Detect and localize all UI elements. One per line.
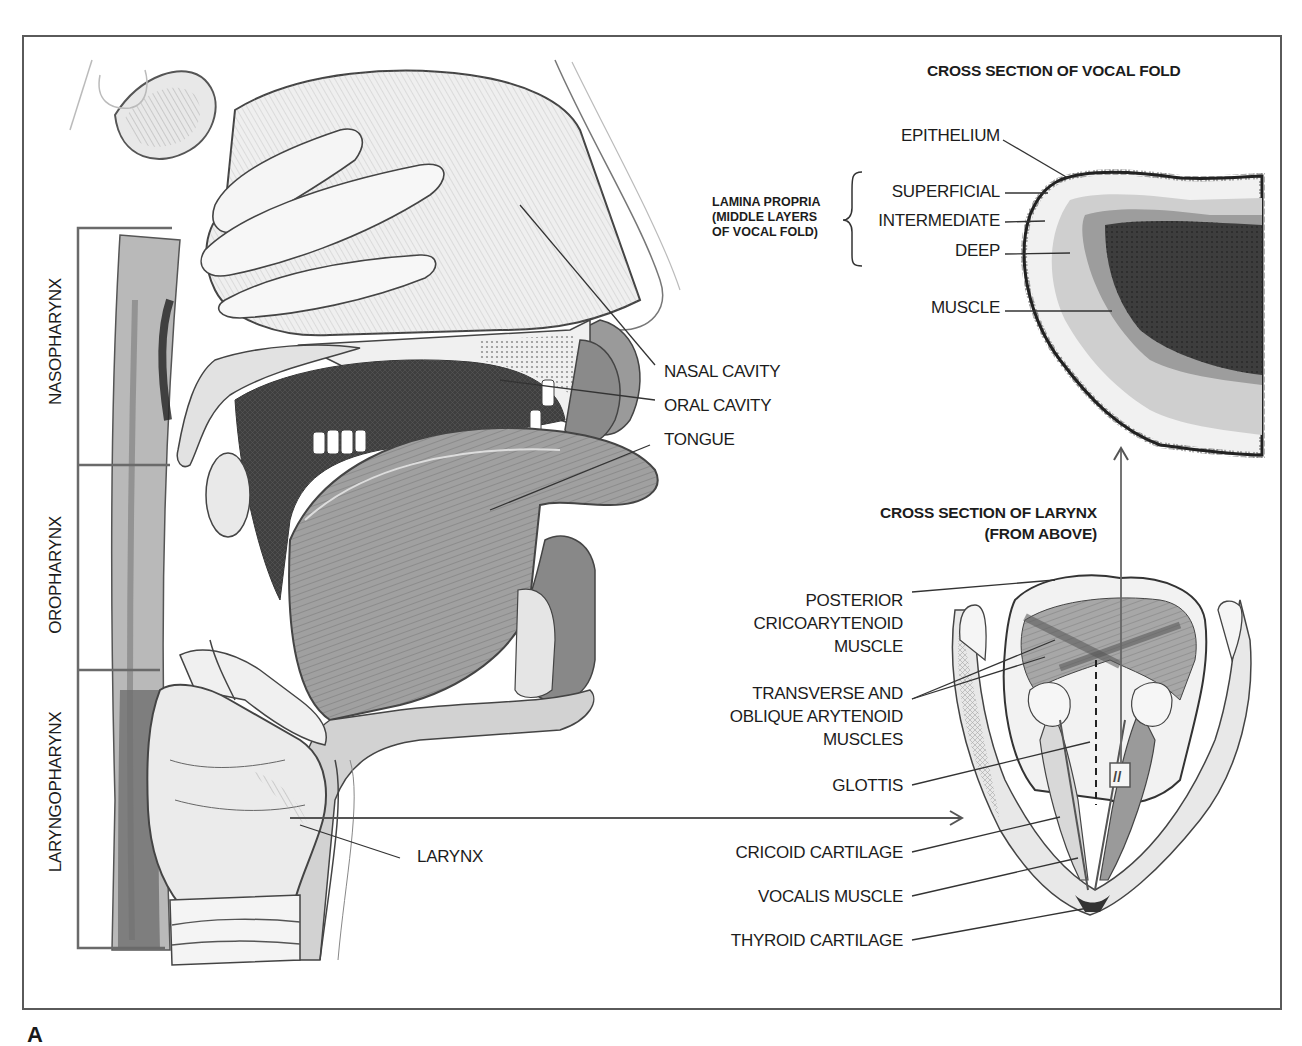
label-muscle: MUSCLE — [931, 298, 1000, 318]
arytenoid-line1: TRANSVERSE AND — [730, 682, 903, 705]
lamina-propria-line2: (MIDDLE LAYERS — [712, 210, 821, 225]
label-superficial: SUPERFICIAL — [892, 182, 1000, 202]
label-larynx: LARYNX — [417, 847, 483, 867]
label-tongue: TONGUE — [664, 430, 735, 450]
label-deep: DEEP — [955, 241, 1000, 261]
larynx-section-illustration: // — [952, 575, 1251, 915]
section-marker-glyph: // — [1113, 768, 1122, 785]
posterior-ca-line2: CRICOARYTENOID — [754, 612, 903, 635]
figure-letter: A — [27, 1022, 43, 1046]
sagittal-head-neck — [70, 60, 680, 965]
posterior-ca-line1: POSTERIOR — [754, 589, 903, 612]
label-vocalis-muscle: VOCALIS MUSCLE — [758, 887, 903, 907]
label-arytenoid-muscles: TRANSVERSE AND OBLIQUE ARYTENOID MUSCLES — [730, 682, 903, 751]
label-nasal-cavity: NASAL CAVITY — [664, 362, 780, 382]
label-intermediate: INTERMEDIATE — [878, 211, 1000, 231]
lamina-propria-line1: LAMINA PROPRIA — [712, 195, 821, 210]
label-glottis: GLOTTIS — [832, 776, 903, 796]
label-thyroid-cartilage: THYROID CARTILAGE — [731, 931, 903, 951]
label-oral-cavity: ORAL CAVITY — [664, 396, 771, 416]
posterior-ca-line3: MUSCLE — [754, 635, 903, 658]
label-epithelium: EPITHELIUM — [901, 126, 1000, 146]
title-larynx-section-line1: CROSS SECTION OF LARYNX — [880, 504, 1097, 522]
title-larynx-section-line2: (FROM ABOVE) — [985, 525, 1097, 543]
label-oropharynx: OROPHARYNX — [46, 515, 66, 635]
arytenoid-line2: OBLIQUE ARYTENOID — [730, 705, 903, 728]
label-laryngopharynx: LARYNGOPHARYNX — [46, 710, 66, 874]
label-cricoid-cartilage: CRICOID CARTILAGE — [736, 843, 903, 863]
vocal-fold-section-illustration — [1024, 172, 1262, 455]
lamina-propria-line3: OF VOCAL FOLD) — [712, 225, 821, 240]
lamina-propria-brace — [843, 172, 862, 266]
label-nasopharynx: NASOPHARYNX — [46, 285, 66, 405]
label-posterior-cricoarytenoid: POSTERIOR CRICOARYTENOID MUSCLE — [754, 589, 903, 658]
title-vocal-fold-section: CROSS SECTION OF VOCAL FOLD — [927, 62, 1181, 80]
arytenoid-line3: MUSCLES — [730, 728, 903, 751]
label-lamina-propria: LAMINA PROPRIA (MIDDLE LAYERS OF VOCAL F… — [712, 195, 821, 240]
